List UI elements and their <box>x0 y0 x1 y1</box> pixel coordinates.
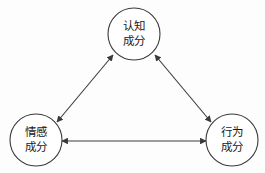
edge-cognitive-behavioral <box>155 55 211 122</box>
node-group <box>10 8 258 166</box>
node-circle-cognitive <box>108 8 160 60</box>
node-circle-affective <box>10 114 62 166</box>
diagram-canvas: 认知 成分 情感 成分 行为 成分 <box>0 0 265 173</box>
edge-group <box>57 55 211 141</box>
edge-affective-cognitive <box>57 55 113 122</box>
diagram-graphics <box>0 0 265 173</box>
node-circle-behavioral <box>206 114 258 166</box>
